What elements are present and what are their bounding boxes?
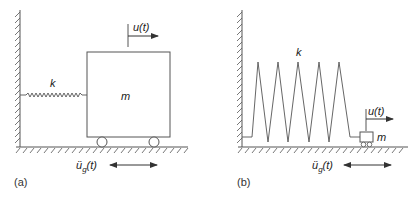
ground-accel-label-b: üg(t) bbox=[312, 159, 333, 174]
svg-text:üg(t): üg(t) bbox=[76, 159, 97, 174]
ground-a bbox=[16, 147, 188, 153]
wall-a bbox=[15, 10, 20, 147]
stiffness-label-a: k bbox=[50, 77, 56, 89]
wheel-icon bbox=[97, 137, 107, 147]
mass-label-a: m bbox=[121, 90, 130, 102]
mass-block-b bbox=[360, 132, 373, 142]
mass-label-b: m bbox=[377, 131, 386, 143]
caption-b: (b) bbox=[237, 176, 250, 188]
wheel-icon bbox=[361, 142, 366, 147]
wheel-icon bbox=[149, 137, 159, 147]
displacement-label-a: u(t) bbox=[133, 21, 150, 33]
spring-b bbox=[242, 62, 360, 142]
ground-b bbox=[238, 147, 408, 153]
panel-a: k m u(t) üg(t) (a) bbox=[14, 10, 188, 188]
svg-text:üg(t): üg(t) bbox=[312, 159, 333, 174]
wall-b bbox=[237, 10, 242, 147]
displacement-label-b: u(t) bbox=[368, 105, 385, 117]
caption-a: (a) bbox=[14, 176, 27, 188]
figure-canvas: k m u(t) üg(t) (a) bbox=[0, 0, 417, 200]
spring-a bbox=[20, 93, 87, 97]
ground-accel-label-a: üg(t) bbox=[76, 159, 97, 174]
wheel-icon bbox=[367, 142, 372, 147]
panel-b: k m u(t) üg(t) (b) bbox=[237, 10, 408, 188]
stiffness-label-b: k bbox=[296, 46, 302, 58]
